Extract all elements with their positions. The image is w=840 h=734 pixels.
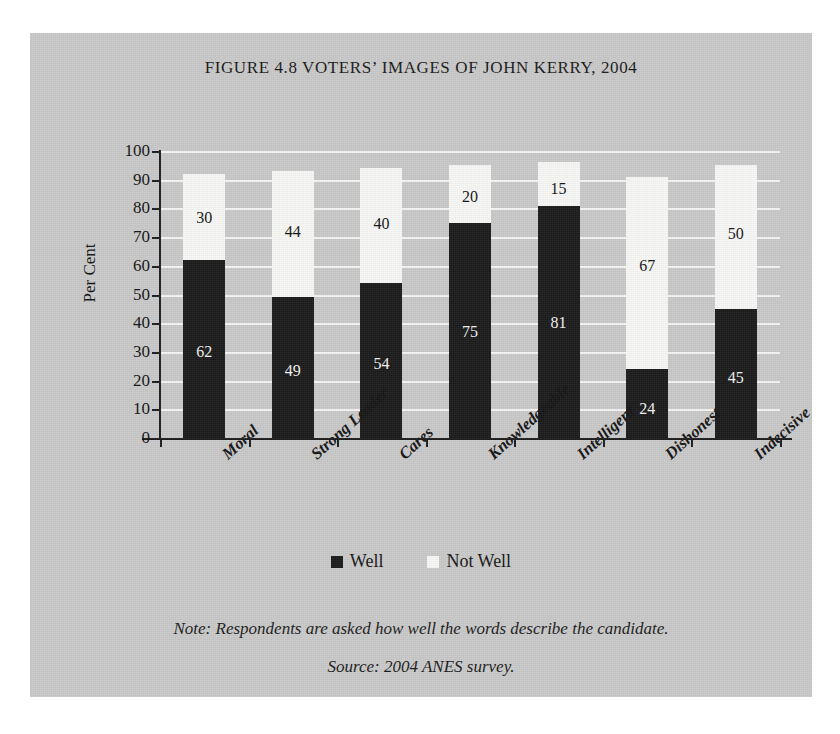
bar-segment-well[interactable]: 24: [626, 369, 668, 438]
y-axis-title: Per Cent: [80, 203, 100, 343]
y-axis-tick: [152, 151, 160, 153]
legend-label: Well: [350, 551, 384, 572]
bar-segment-well[interactable]: 49: [272, 297, 314, 438]
x-axis-tick: [514, 439, 516, 447]
y-axis-tick: [152, 237, 160, 239]
bar-value-label-well: 45: [715, 370, 757, 386]
chart-legend: WellNot Well: [30, 551, 812, 572]
y-axis-tick-label: 20: [106, 372, 150, 389]
y-axis-tick: [152, 323, 160, 325]
bar-value-label-not-well: 15: [538, 181, 580, 197]
y-axis-tick: [152, 352, 160, 354]
bar-stack[interactable]: 2075: [449, 165, 491, 438]
legend-item[interactable]: Not Well: [427, 551, 511, 572]
y-axis-tick-label: 80: [106, 199, 150, 216]
y-axis-tick: [152, 180, 160, 182]
category-label: Dishonest: [661, 449, 674, 464]
bar-stack[interactable]: 5045: [715, 165, 757, 438]
bar-stack[interactable]: 6724: [626, 177, 668, 438]
bar-segment-not-well[interactable]: 67: [626, 177, 668, 369]
bar-segment-not-well[interactable]: 40: [360, 168, 402, 283]
x-axis-tick: [780, 439, 782, 447]
legend-swatch-icon: [427, 556, 439, 568]
bar-value-label-not-well: 44: [272, 224, 314, 240]
bar-segment-well[interactable]: 62: [183, 260, 225, 438]
x-axis-tick: [160, 439, 162, 447]
x-axis-tick: [249, 439, 251, 447]
category-label: Strong Leader: [307, 449, 320, 464]
y-axis-tick-labels: 1009080706050403020100: [90, 33, 150, 697]
bar-value-label-not-well: 20: [449, 189, 491, 205]
x-axis-tick: [426, 439, 428, 447]
bar-value-label-not-well: 67: [626, 258, 668, 274]
x-axis-tick: [603, 439, 605, 447]
y-axis-tick: [152, 295, 160, 297]
y-axis-tick-label: 50: [106, 286, 150, 303]
bar-stack[interactable]: 4449: [272, 171, 314, 438]
category-labels: MoralStrong LeaderCaresKnowledgeableInte…: [160, 443, 780, 563]
y-axis-tick: [152, 381, 160, 383]
chart-title: FIGURE 4.8 VOTERS’ IMAGES OF JOHN KERRY,…: [30, 58, 812, 78]
y-axis-tick-label: 30: [106, 343, 150, 360]
bar-value-label-well: 75: [449, 324, 491, 340]
figure-notes: Note: Respondents are asked how well the…: [30, 619, 812, 695]
bar-value-label-not-well: 50: [715, 226, 757, 242]
legend-label: Not Well: [446, 551, 511, 572]
bar-group[interactable]: 4449: [249, 151, 338, 438]
note-line-note: Note: Respondents are asked how well the…: [30, 619, 812, 639]
bars-layer: 3062444940542075158167245045: [160, 151, 780, 438]
y-axis-tick-label: 60: [106, 257, 150, 274]
x-axis-tick: [337, 439, 339, 447]
note-line-source: Source: 2004 ANES survey.: [30, 657, 812, 677]
y-axis-tick-label: 70: [106, 228, 150, 245]
legend-swatch-icon: [331, 556, 343, 568]
y-axis-tick-label: 100: [106, 142, 150, 159]
figure-panel: FIGURE 4.8 VOTERS’ IMAGES OF JOHN KERRY,…: [30, 33, 812, 697]
y-axis-tick-label: 0: [106, 429, 150, 446]
bar-value-label-well: 81: [538, 315, 580, 331]
y-axis-tick: [152, 409, 160, 411]
bar-value-label-not-well: 40: [360, 216, 402, 232]
legend-item[interactable]: Well: [331, 551, 384, 572]
bar-group[interactable]: 6724: [603, 151, 692, 438]
bar-value-label-well: 54: [360, 356, 402, 372]
bar-value-label-not-well: 30: [183, 210, 225, 226]
bar-group[interactable]: 5045: [691, 151, 780, 438]
y-axis-tick: [152, 438, 160, 440]
plot-area: 3062444940542075158167245045: [160, 151, 780, 438]
bar-group[interactable]: 3062: [160, 151, 249, 438]
bar-segment-not-well[interactable]: 20: [449, 165, 491, 222]
bar-value-label-well: 49: [272, 363, 314, 379]
bar-segment-well[interactable]: 75: [449, 223, 491, 438]
y-axis-tick-label: 10: [106, 400, 150, 417]
category-label: Knowledgeable: [484, 449, 497, 464]
y-axis-tick: [152, 208, 160, 210]
bar-segment-not-well[interactable]: 15: [538, 162, 580, 205]
x-axis-line: [142, 438, 792, 440]
category-label: Indecisive: [750, 449, 763, 464]
category-label: Intelligent: [573, 449, 586, 464]
bar-stack[interactable]: 3062: [183, 174, 225, 438]
y-axis-tick-label: 40: [106, 314, 150, 331]
bar-value-label-well: 62: [183, 344, 225, 360]
y-axis-tick: [152, 266, 160, 268]
x-axis-tick: [691, 439, 693, 447]
bar-group[interactable]: 2075: [426, 151, 515, 438]
bar-segment-not-well[interactable]: 44: [272, 171, 314, 297]
y-axis-tick-label: 90: [106, 171, 150, 188]
bar-segment-not-well[interactable]: 50: [715, 165, 757, 309]
bar-segment-not-well[interactable]: 30: [183, 174, 225, 260]
category-label: Moral: [218, 449, 231, 464]
category-label: Cares: [395, 449, 408, 464]
